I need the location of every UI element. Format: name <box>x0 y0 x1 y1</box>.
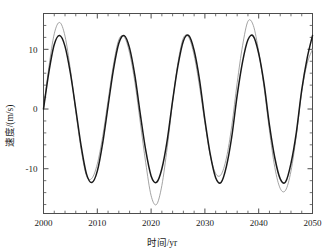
y-tick-label: 10 <box>29 45 39 55</box>
velocity-vs-time-line-chart: 200020102020203020402050-10010 <box>0 0 324 251</box>
x-tick-label: 2000 <box>35 218 54 228</box>
chart-figure: 200020102020203020402050-10010 时间/yr 速度/… <box>0 0 324 251</box>
y-tick-label: -10 <box>26 164 38 174</box>
x-tick-label: 2020 <box>142 218 161 228</box>
x-tick-label: 2010 <box>88 218 107 228</box>
x-tick-label: 2040 <box>250 218 269 228</box>
x-tick-label: 2030 <box>196 218 215 228</box>
y-tick-label: 0 <box>33 104 38 114</box>
y-axis-title: 速度/(m/s) <box>2 86 16 166</box>
x-axis-title: 时间/yr <box>0 235 324 249</box>
x-tick-label: 2050 <box>304 218 323 228</box>
